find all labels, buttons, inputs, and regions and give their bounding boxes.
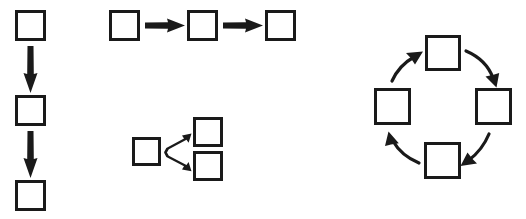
arrow-up-right-icon <box>164 134 192 154</box>
arrow-down-right-icon <box>164 152 192 172</box>
node-square[interactable] <box>189 12 217 40</box>
curved-arrow-right-bottom-icon <box>461 134 490 166</box>
node-square[interactable] <box>17 97 45 125</box>
node-square[interactable] <box>426 144 460 178</box>
group-cycle <box>376 37 511 178</box>
arrow-down-icon <box>24 46 38 93</box>
node-square[interactable] <box>111 12 139 40</box>
group-branch-split <box>134 119 222 180</box>
group-horizontal-chain <box>111 12 295 40</box>
node-square[interactable] <box>427 37 460 70</box>
node-square[interactable] <box>17 12 45 40</box>
node-square[interactable] <box>195 153 222 180</box>
arrow-right-icon <box>145 19 185 33</box>
node-square[interactable] <box>17 182 45 210</box>
arrow-down-icon <box>24 131 38 178</box>
group-vertical-chain <box>17 12 45 210</box>
curved-arrow-bottom-left-icon <box>385 132 419 164</box>
node-square[interactable] <box>134 139 160 165</box>
node-square[interactable] <box>376 90 410 124</box>
node-square[interactable] <box>267 12 295 40</box>
curved-arrow-left-top-icon <box>392 52 423 82</box>
curved-arrow-top-right-icon <box>466 51 499 88</box>
diagram-canvas <box>0 0 526 219</box>
diagram-svg <box>0 0 526 219</box>
node-square[interactable] <box>477 90 511 124</box>
arrow-right-icon <box>223 19 263 33</box>
node-square[interactable] <box>195 119 222 146</box>
